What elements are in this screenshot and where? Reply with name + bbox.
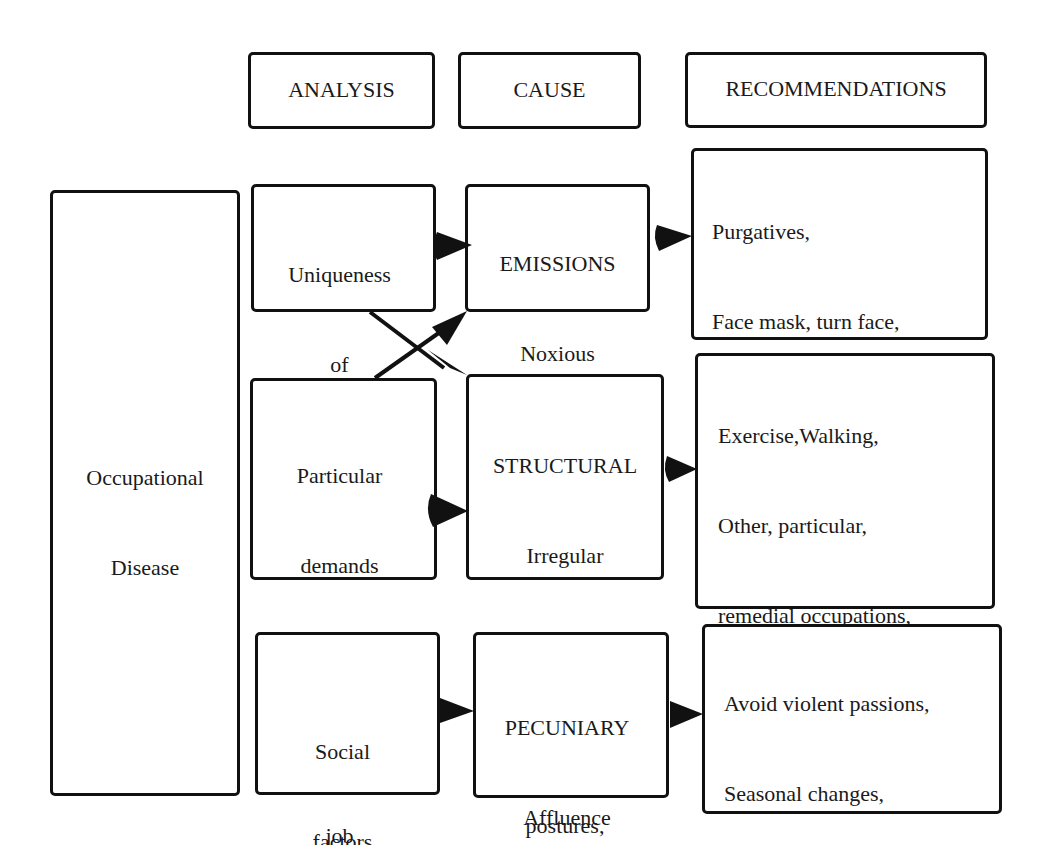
text-line: Uniqueness — [254, 260, 425, 290]
arrowhead-pecuniary-recommendations-icon — [670, 701, 703, 728]
text-line: Social — [258, 737, 427, 767]
text-line: Avoid violent passions, — [724, 689, 931, 719]
text-line: of — [254, 350, 425, 380]
text-line: Seasonal changes, — [724, 779, 931, 809]
arrowhead-to-structural-icon — [428, 350, 467, 375]
occupational-disease-box: Occupational Disease — [50, 190, 240, 796]
text-line: Purgatives, — [712, 217, 900, 247]
header-analysis-label: ANALYSIS — [251, 75, 432, 105]
header-recommendations-label: RECOMMENDATIONS — [688, 74, 984, 104]
analysis-box-particular-demands: Particular demands of particular job — [250, 378, 437, 580]
header-cause-label: CAUSE — [461, 75, 638, 105]
text-line: Face mask, turn face, — [712, 307, 900, 337]
text-line: factors — [258, 827, 427, 845]
occupational-disease-line1: Occupational — [53, 463, 237, 493]
arrowhead-emissions-recommendations-icon — [655, 225, 692, 251]
cause-box-emissions: EMISSIONS Noxious vapours, Fine particle… — [465, 184, 650, 312]
analysis-text-social-factors: Social factors — [258, 677, 427, 845]
text-line: Noxious — [468, 339, 647, 369]
analysis-box-social-factors: Social factors — [255, 632, 440, 795]
text-line: demands — [253, 551, 426, 581]
header-recommendations-box: RECOMMENDATIONS — [685, 52, 987, 128]
text-line: Particular — [253, 461, 426, 491]
occupational-disease-line2: Disease — [53, 553, 237, 583]
recommendations-box-structural: Exercise,Walking, Other, particular, rem… — [695, 353, 995, 609]
text-line: Exercise,Walking, — [718, 421, 911, 451]
cause-title-structural: STRUCTURAL — [469, 451, 661, 481]
recommendations-text-pecuniary: Avoid violent passions, Seasonal changes… — [724, 629, 931, 845]
header-cause-box: CAUSE — [458, 52, 641, 129]
arrowhead-structural-recommendations-icon — [665, 456, 697, 482]
header-analysis-box: ANALYSIS — [248, 52, 435, 129]
text-line: Irregular — [469, 541, 661, 571]
occupational-disease-label: Occupational Disease — [53, 403, 237, 643]
text-line: Other, particular, — [718, 511, 911, 541]
recommendations-box-emissions: Purgatives, Face mask, turn face, Short … — [691, 148, 988, 340]
cause-box-structural: STRUCTURAL Irregular movement, Unnatural… — [466, 374, 664, 580]
analysis-box-uniqueness: Uniqueness of individuals — [251, 184, 436, 312]
arrowhead-to-emissions-icon — [432, 311, 467, 345]
cause-title-pecuniary: PECUNIARY — [476, 713, 658, 743]
cause-box-pecuniary: PECUNIARY Affluence or Poverty — [473, 632, 669, 798]
text-line: Affluence — [476, 803, 658, 833]
cause-text-pecuniary: PECUNIARY Affluence or Poverty — [476, 653, 658, 845]
cause-title-emissions: EMISSIONS — [468, 249, 647, 279]
recommendations-box-pecuniary: Avoid violent passions, Seasonal changes… — [702, 624, 1002, 814]
